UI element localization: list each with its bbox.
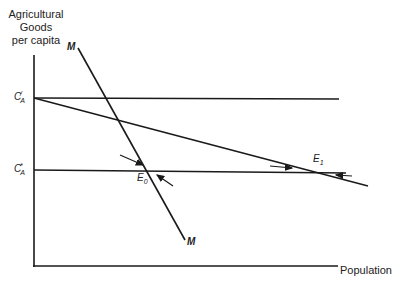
y-axis-label-line-3: per capita: [0, 34, 72, 47]
m-curve-bottom-label: M: [187, 236, 195, 247]
e1-arrow-left-icon: [270, 166, 292, 168]
e1-arrow-right-icon: [336, 175, 352, 176]
lower-level-label: CA*: [14, 162, 23, 176]
declining-curve: [34, 98, 368, 186]
m-curve: [78, 48, 185, 240]
x-axis-label: Population: [340, 264, 392, 276]
m-curve-top-label: M: [67, 41, 75, 52]
upper-level-label: CA/: [14, 90, 22, 104]
e0-label: E0: [137, 172, 148, 185]
e0-arrow-right-icon: [157, 175, 173, 186]
upper-level-line: [34, 98, 339, 99]
e1-label: E1: [313, 153, 324, 166]
y-axis-label-line-1: Agricultural: [0, 8, 72, 21]
y-axis-label-line-2: Goods: [0, 21, 72, 34]
diagram: Agricultural Goods per capita Population…: [0, 0, 400, 287]
y-axis-label: Agricultural Goods per capita: [0, 8, 72, 47]
lower-level-line: [34, 170, 346, 173]
